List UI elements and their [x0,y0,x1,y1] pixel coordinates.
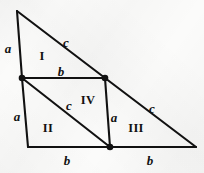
geometry-figure: acbacacbbIIVIIIII [0,0,204,173]
vertex-dot-upper-right [102,75,109,82]
side-label-b-middle: b [58,65,65,78]
vertex-dot-left-mid [19,75,26,82]
segment-left-upper-edge [17,11,22,78]
side-label-a-left-lower: a [14,110,21,123]
segment-inner-diagonal [22,78,110,147]
side-label-c-inner: c [66,99,72,112]
side-label-b-bottom-right: b [147,154,154,167]
segment-left-lower-edge [22,78,28,147]
vertex-dot-bottom-mid [107,144,114,151]
side-label-a-inner-right: a [111,111,118,124]
segment-parallelogram-right [105,78,110,147]
side-label-c-right: c [149,102,155,115]
region-label-region-IV: IV [81,94,96,107]
region-label-region-III: III [128,122,144,135]
region-label-region-II: II [43,122,53,135]
side-label-a-top-left: a [5,42,12,55]
region-label-region-I: I [39,50,44,63]
figure-canvas [0,0,204,173]
side-label-c-top: c [63,36,69,49]
side-label-b-bottom-left: b [64,154,71,167]
